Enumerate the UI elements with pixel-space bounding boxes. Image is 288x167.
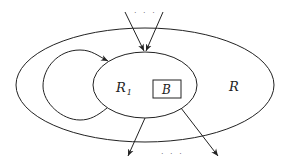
outgoing-edge-right: [181, 108, 218, 156]
label-B: B: [161, 83, 171, 97]
ellipsis-bottom: · · ·: [161, 149, 184, 158]
region-diagram: R1 B R · · · · · ·: [0, 0, 288, 167]
ellipsis-top: · · ·: [134, 8, 157, 17]
incoming-edge-left: [125, 12, 144, 51]
loop-back-edge: [43, 50, 108, 120]
outgoing-edge-left: [128, 118, 145, 156]
label-R1: R1: [115, 80, 132, 97]
label-R: R: [228, 79, 239, 94]
incoming-edge-right: [146, 12, 163, 51]
